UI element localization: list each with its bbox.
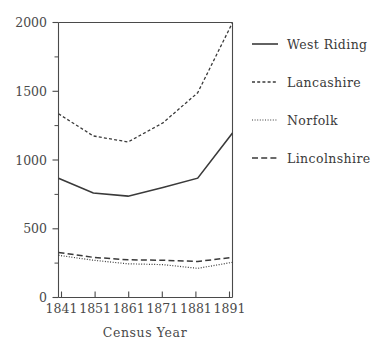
y-axis-major-ticks <box>53 23 59 298</box>
legend-label: Norfolk <box>287 113 338 128</box>
y-tick-label-500: 500 <box>23 221 47 236</box>
chart-legend: West RidingLancashireNorfolkLincolnshire <box>252 37 371 166</box>
x-tick-label-1871: 1871 <box>146 301 178 316</box>
legend-entry-west-riding[interactable]: West Riding <box>252 37 368 52</box>
legend-entry-lancashire[interactable]: Lancashire <box>252 75 361 90</box>
legend-label: West Riding <box>287 37 368 52</box>
series-line-west-riding <box>59 133 233 196</box>
x-tick-label-1851: 1851 <box>79 301 111 316</box>
series-line-lancashire <box>59 23 233 142</box>
legend-label: Lincolnshire <box>287 151 371 166</box>
x-axis-ticks <box>62 292 230 298</box>
line-chart: 0 500 1000 1500 2000 1841 1851 1861 1871… <box>0 0 384 345</box>
legend-entry-norfolk[interactable]: Norfolk <box>252 113 338 128</box>
y-tick-label-1000: 1000 <box>15 153 47 168</box>
series-line-lincolnshire <box>59 252 233 261</box>
chart-figure: 0 500 1000 1500 2000 1841 1851 1861 1871… <box>0 0 384 345</box>
series-layer <box>59 23 233 269</box>
series-line-norfolk <box>59 255 233 268</box>
legend-label: Lancashire <box>287 75 361 90</box>
y-tick-label-1500: 1500 <box>15 84 47 99</box>
x-tick-label-1891: 1891 <box>214 301 246 316</box>
y-tick-label-2000: 2000 <box>15 15 47 30</box>
x-tick-label-1841: 1841 <box>46 301 78 316</box>
x-tick-label-1861: 1861 <box>113 301 145 316</box>
legend-entry-lincolnshire[interactable]: Lincolnshire <box>252 151 371 166</box>
x-tick-label-1881: 1881 <box>180 301 212 316</box>
x-axis-title: Census Year <box>103 325 187 340</box>
